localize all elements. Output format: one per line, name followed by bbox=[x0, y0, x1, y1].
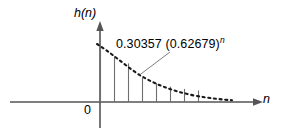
envelope-equation-annotation: 0.30357 (0.62679)n bbox=[116, 36, 225, 51]
y-axis-label: h(n) bbox=[74, 7, 96, 20]
x-axis-label-text: n bbox=[263, 92, 270, 106]
origin-label: 0 bbox=[84, 104, 91, 117]
plot-canvas bbox=[0, 0, 281, 139]
impulse-response-figure: h(n) n 0 0.30357 (0.62679)n bbox=[0, 0, 281, 139]
envelope-curve bbox=[97, 44, 232, 100]
y-axis-label-text: h(n) bbox=[74, 6, 96, 20]
x-axis-label: n bbox=[263, 93, 270, 106]
y-axis-arrowhead bbox=[96, 21, 103, 31]
origin-label-text: 0 bbox=[84, 103, 91, 117]
equation-exponent-text: n bbox=[220, 35, 225, 45]
annotation-leader-line bbox=[140, 52, 171, 75]
equation-coefficient-text: 0.30357 (0.62679) bbox=[116, 37, 220, 51]
x-axis-arrowhead bbox=[253, 98, 263, 106]
